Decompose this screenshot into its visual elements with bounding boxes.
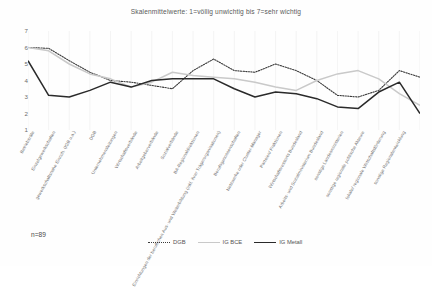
x-axis-labels: BetriebsräteEinzelgewerkschaftengewerksc… [0,130,432,234]
legend-item: IG BCE [198,239,243,245]
y-axis-tick: 5 [16,60,28,68]
y-axis-tick: 7 [16,27,28,35]
chart-title: Skalenmittelwerte: 1=völlig unwichtig bi… [0,8,432,15]
legend-label: IG BCE [223,239,243,245]
x-axis-tick-label: Betriebsräte [19,130,35,154]
x-axis-tick-label: DGB [88,130,97,141]
y-axis: 7654321 [16,27,28,134]
y-axis-tick: 3 [16,93,28,101]
chart-legend: DGBIG BCEIG Metall [148,236,302,248]
x-axis-tick-label: sonstige regionale politische Akteure [325,130,366,198]
x-axis-tick-label: Sozialverbände [160,130,180,160]
legend-label: IG Metall [279,239,302,245]
x-axis-tick-label: lokale/ regionale Wirtschaftsförderung [344,130,386,200]
legend-label: DGB [173,239,186,245]
legend-item: DGB [148,239,186,245]
legend-swatch [254,242,276,243]
y-axis-tick: 6 [16,44,28,52]
legend-swatch [198,242,220,243]
x-axis-tick-label: Arbeitgeberverbände [134,130,159,170]
legend-item: IG Metall [254,239,302,245]
y-axis-tick: 4 [16,77,28,85]
x-axis-tick-label: Wirtschaftsverbände [114,130,139,169]
y-axis-tick: 2 [16,110,28,118]
sample-size-note: n=89 [31,231,46,238]
x-axis-tick-label: gewerkschaftsnahe Einrich. (IGB u.a.) [35,130,77,200]
legend-swatch [148,242,170,243]
